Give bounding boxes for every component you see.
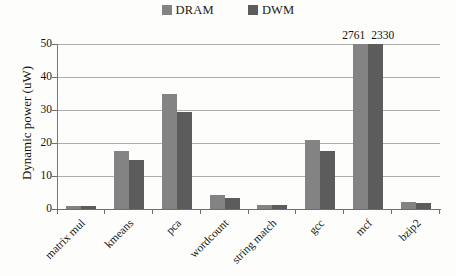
y-tick-label-30: 30 (26, 104, 52, 116)
x-label-kmeans: kmeans (103, 216, 137, 250)
bar-chart-figure: DRAM DWM Dynamic power (uW) 50 40 30 20 … (0, 0, 456, 276)
bar-kmeans-dwm (129, 160, 144, 209)
bar-gcc-dram (305, 140, 320, 209)
x-label-cell-string-match: string match (249, 214, 297, 276)
x-label-cell-bzip2: bzip2 (392, 214, 440, 276)
chart-legend: DRAM DWM (0, 4, 456, 17)
x-label-matrix-mul: matrix mul (44, 216, 89, 261)
legend-swatch-dram (162, 5, 172, 15)
bar-wordcount-dram (210, 195, 225, 209)
bar-mcf-dram (353, 44, 368, 209)
mcf-dwm-value-label: 2330 (371, 30, 394, 42)
x-label-mcf: mcf (354, 216, 376, 238)
bar-pca-dwm (177, 112, 192, 209)
bar-group-bzip2 (392, 44, 440, 209)
x-label-cell-gcc: gcc (296, 214, 344, 276)
x-label-bzip2: bzip2 (397, 216, 425, 244)
bar-wordcount-dwm (225, 198, 240, 209)
bar-bzip2-dram (401, 202, 416, 209)
legend-swatch-dwm (248, 5, 258, 15)
bar-group-gcc (296, 44, 344, 209)
legend-item-dram: DRAM (162, 4, 214, 17)
bar-group-string-match (249, 44, 297, 209)
y-tick-label-20: 20 (26, 137, 52, 149)
x-label-pca: pca (164, 216, 185, 237)
bar-group-pca (153, 44, 201, 209)
x-label-gcc: gcc (308, 216, 329, 237)
bar-group-mcf: 2761 2330 (344, 44, 392, 209)
y-axis-title: Dynamic power (uW) (19, 33, 35, 213)
bar-group-matrix-mul (57, 44, 105, 209)
bars-layer: 2761 2330 (57, 44, 440, 209)
bar-gcc-dwm (320, 151, 335, 209)
legend-item-dwm: DWM (248, 4, 295, 17)
mcf-overflow-annotations: 2761 2330 (342, 30, 394, 42)
legend-label-dram: DRAM (176, 4, 214, 17)
x-axis-labels: matrix mul kmeans pca wordcount string m… (57, 214, 440, 276)
bar-mcf-dwm (368, 44, 383, 209)
x-label-cell-mcf: mcf (344, 214, 392, 276)
y-tick-label-10: 10 (26, 170, 52, 182)
y-tick-label-40: 40 (26, 71, 52, 83)
x-label-cell-matrix-mul: matrix mul (57, 214, 105, 276)
bar-kmeans-dram (114, 151, 129, 209)
bar-pca-dram (162, 94, 177, 210)
x-label-cell-kmeans: kmeans (105, 214, 153, 276)
y-tick-label-0: 0 (26, 203, 52, 215)
y-tick-label-50: 50 (26, 38, 52, 50)
bar-group-wordcount (201, 44, 249, 209)
bar-group-kmeans (105, 44, 153, 209)
mcf-dram-value-label: 2761 (342, 30, 365, 42)
legend-label-dwm: DWM (262, 4, 295, 17)
